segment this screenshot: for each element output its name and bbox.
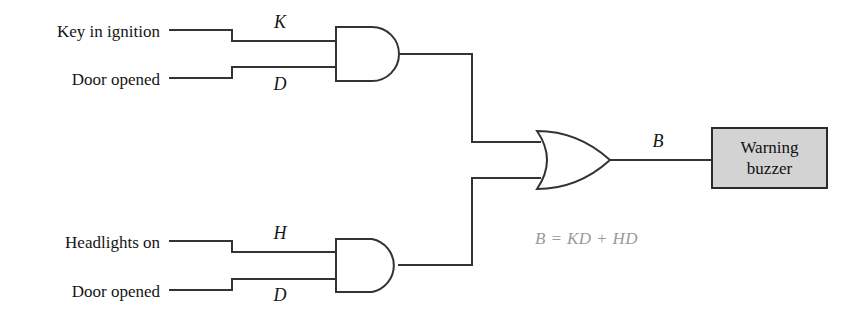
signal-label-d-top: D xyxy=(260,74,300,94)
signal-label-k: K xyxy=(260,12,300,32)
warning-buzzer-line1: Warning xyxy=(740,137,798,158)
signal-label-d-bottom: D xyxy=(260,285,300,305)
wire-and-top-to-or xyxy=(399,54,540,142)
input-label-headlights-on: Headlights on xyxy=(10,233,160,252)
wire-door-bottom-to-and-bottom xyxy=(170,279,336,290)
wire-key-to-and-top xyxy=(170,30,336,41)
signal-label-h: H xyxy=(260,223,300,243)
boolean-equation: B = KD + HD xyxy=(535,229,638,249)
signal-label-b-output: B xyxy=(638,131,678,151)
input-label-key-in-ignition: Key in ignition xyxy=(10,22,160,41)
wire-door-top-to-and-top xyxy=(170,67,336,78)
and-gate-top xyxy=(336,27,399,81)
warning-buzzer-line2: buzzer xyxy=(747,158,792,179)
wire-and-bottom-to-or xyxy=(399,178,540,265)
or-gate-main xyxy=(537,131,610,189)
logic-circuit-diagram: Key in ignition Door opened Headlights o… xyxy=(0,0,861,321)
wire-headlights-to-and-bottom xyxy=(170,241,336,252)
input-label-door-opened-bottom: Door opened xyxy=(10,282,160,301)
warning-buzzer-box: Warning buzzer xyxy=(711,127,828,189)
and-gate-bottom xyxy=(336,239,394,292)
input-label-door-opened-top: Door opened xyxy=(10,70,160,89)
